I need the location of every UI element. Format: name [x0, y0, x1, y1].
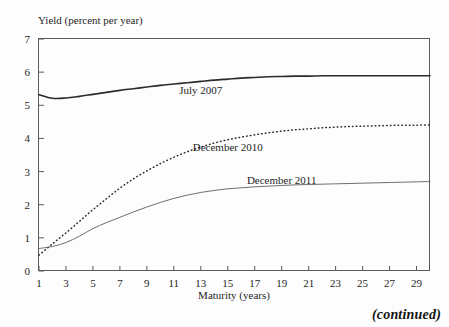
x-axis-title: Maturity (years) — [198, 289, 270, 302]
y-tick-label: 4 — [25, 132, 31, 144]
continued-note: (continued) — [372, 307, 441, 323]
x-axis-ticks: 1357911131517192123252729 — [36, 266, 422, 289]
series-label-december-2010: December 2010 — [193, 141, 263, 153]
plot-frame — [39, 39, 430, 271]
x-tick-label: 13 — [195, 277, 207, 289]
x-tick-label: 11 — [169, 277, 180, 289]
y-tick-label: 6 — [25, 66, 31, 78]
y-tick-label: 0 — [25, 265, 31, 277]
x-tick-label: 29 — [411, 277, 423, 289]
y-tick-label: 5 — [25, 99, 31, 111]
x-tick-label: 7 — [117, 277, 123, 289]
x-tick-label: 5 — [90, 277, 96, 289]
yield-curve-chart: Yield (percent per year) 01234567 135791… — [0, 0, 449, 327]
x-tick-label: 9 — [144, 277, 150, 289]
data-curves — [39, 76, 430, 255]
x-tick-label: 17 — [249, 277, 261, 289]
x-tick-label: 25 — [357, 277, 369, 289]
y-axis-ticks: 01234567 — [25, 33, 45, 277]
y-tick-label: 2 — [25, 199, 31, 211]
series-line-december-2011 — [39, 182, 430, 249]
x-tick-label: 27 — [384, 277, 396, 289]
x-tick-label: 21 — [303, 277, 314, 289]
y-tick-label: 3 — [25, 166, 31, 178]
yield-curve-figure: Yield (percent per year) 01234567 135791… — [0, 0, 449, 327]
series-line-july-2007 — [39, 76, 430, 99]
series-label-july-2007: July 2007 — [179, 84, 223, 96]
y-axis-title: Yield (percent per year) — [38, 14, 143, 27]
x-tick-label: 19 — [276, 277, 288, 289]
x-tick-label: 15 — [222, 277, 234, 289]
y-tick-label: 1 — [25, 232, 31, 244]
x-tick-label: 23 — [330, 277, 342, 289]
series-annotations: July 2007December 2010December 2011 — [179, 84, 316, 186]
series-label-december-2011: December 2011 — [247, 174, 317, 186]
y-tick-label: 7 — [25, 33, 31, 45]
x-tick-label: 3 — [63, 277, 69, 289]
x-tick-label: 1 — [36, 277, 42, 289]
